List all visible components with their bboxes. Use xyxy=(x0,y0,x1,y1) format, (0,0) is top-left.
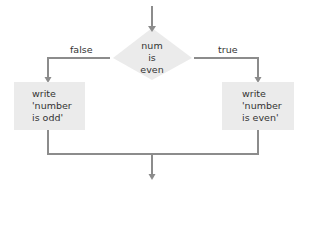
odd-box-line-1: write xyxy=(32,88,56,100)
odd-box-line-3: is odd' xyxy=(32,112,63,124)
true-label: true xyxy=(218,44,238,56)
true-branch-line xyxy=(194,58,258,80)
exit-arrow-head xyxy=(149,174,156,180)
odd-box-line-2: 'number xyxy=(32,100,72,112)
merge-line xyxy=(48,130,258,154)
false-label: false xyxy=(70,44,93,56)
even-box-line-2: 'number xyxy=(242,100,282,112)
even-box-line-1: write xyxy=(242,88,266,100)
decision-line-2: is xyxy=(132,52,172,64)
even-box-line-3: is even' xyxy=(242,112,279,124)
decision-line-3: even xyxy=(132,64,172,76)
decision-line-1: num xyxy=(132,40,172,52)
false-branch-line xyxy=(48,58,110,80)
